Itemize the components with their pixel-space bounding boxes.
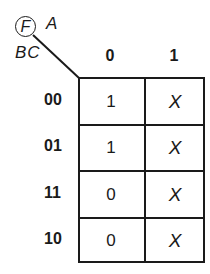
cell-10-1: X — [144, 219, 206, 263]
column-header-0: 0 — [79, 47, 141, 65]
row-variables-label: BC — [15, 43, 41, 63]
row-header-10: 10 — [44, 230, 76, 248]
function-label: F — [15, 16, 36, 37]
row-header-11: 11 — [44, 184, 76, 202]
cell-10-0: 0 — [80, 219, 142, 263]
cell-11-0: 0 — [80, 173, 142, 217]
column-header-1: 1 — [143, 47, 205, 65]
cell-00-1: X — [144, 80, 206, 124]
cell-01-0: 1 — [80, 126, 142, 170]
column-variable-label: A — [46, 14, 57, 34]
cell-11-1: X — [144, 173, 206, 217]
row-header-01: 01 — [44, 137, 76, 155]
cell-01-1: X — [144, 126, 206, 170]
kmap-grid: 1 X 1 X 0 X 0 X — [78, 77, 205, 263]
row-header-00: 00 — [44, 91, 76, 109]
row-divider — [80, 170, 203, 172]
cell-00-0: 1 — [80, 80, 142, 124]
